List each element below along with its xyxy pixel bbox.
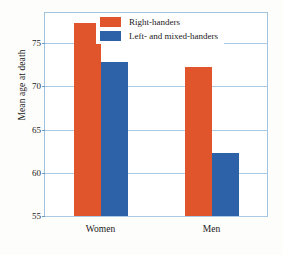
gridline (45, 216, 267, 217)
x-axis-label-women: Women (86, 224, 115, 234)
legend-item: Left- and mixed-handers (100, 31, 218, 41)
y-tick-label: 55 (32, 211, 41, 221)
y-tick-label: 75 (32, 38, 41, 48)
x-axis-label-men: Men (203, 224, 220, 234)
legend-swatch-icon (100, 17, 121, 27)
y-tick-label: 65 (32, 125, 41, 135)
y-tick-mark (42, 86, 45, 87)
y-tick-mark (42, 43, 45, 44)
bar-women-left-and-mixed-handers (101, 62, 128, 216)
y-tick-label: 70 (32, 81, 41, 91)
legend-swatch-icon (100, 31, 121, 41)
bar-men-left-and-mixed-handers (212, 153, 239, 216)
y-axis-title: Mean age at death (17, 20, 27, 150)
bar-men-right-handers (185, 67, 212, 216)
y-tick-label: 60 (32, 168, 41, 178)
legend-label: Right-handers (129, 17, 180, 27)
legend-label: Left- and mixed-handers (129, 31, 218, 41)
legend: Right-handersLeft- and mixed-handers (96, 14, 224, 44)
y-tick-mark (42, 130, 45, 131)
legend-item: Right-handers (100, 17, 218, 27)
bar-women-right-handers (74, 23, 101, 216)
bar-chart: Mean age at death 5560657075 WomenMen Ri… (0, 0, 283, 255)
y-tick-mark (42, 173, 45, 174)
y-tick-mark (42, 216, 45, 217)
